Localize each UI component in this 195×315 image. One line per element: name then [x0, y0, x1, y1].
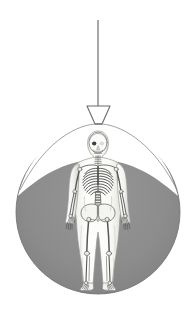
- skull: [89, 132, 107, 153]
- lumbar-spine: [95, 193, 101, 205]
- anatomy-lamp-illustration: [0, 0, 195, 315]
- pelvis: [81, 204, 115, 222]
- illustration-canvas: Hanging lamp illuminating anatomical ske…: [0, 0, 195, 315]
